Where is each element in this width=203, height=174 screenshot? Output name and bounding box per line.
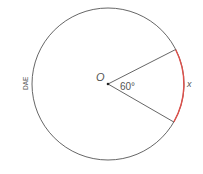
radius-upper [108,50,176,85]
center-point [107,83,110,86]
center-label: O [96,71,105,83]
circle-diagram: O 60° x DAE [0,0,203,174]
side-label: DAE [22,76,29,90]
highlighted-arc [174,50,184,123]
arc-label: x [186,79,192,89]
radius-lower [108,84,174,122]
angle-label: 60° [120,81,135,92]
